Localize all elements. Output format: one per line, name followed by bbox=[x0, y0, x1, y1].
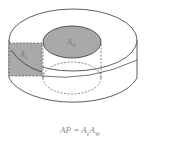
formula-lhs: AP bbox=[60, 125, 71, 135]
area-product-formula: AP = AeAW bbox=[0, 125, 160, 137]
window-area-ellipse bbox=[43, 26, 101, 58]
formula-equals: = bbox=[71, 125, 81, 135]
toroid-diagram: AW Ae AP = AeAW bbox=[0, 0, 172, 149]
formula-sub-w: W bbox=[95, 131, 100, 137]
